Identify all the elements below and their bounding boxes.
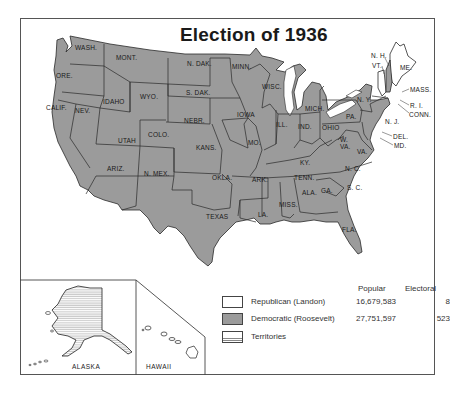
- legend-label: Republican (Landon): [251, 297, 325, 306]
- legend-header-electoral: Electoral: [405, 284, 436, 293]
- inset-label-hawaii: HAWAII: [146, 363, 172, 370]
- legend-electoral-vote: 8: [422, 297, 450, 306]
- republican-swatch: [222, 296, 243, 308]
- territories-swatch: [222, 331, 243, 343]
- legend-header-popular: Popular: [358, 284, 386, 293]
- inset-label-alaska: ALASKA: [72, 363, 100, 370]
- legend-popular-vote: 16,679,583: [356, 297, 396, 306]
- legend-popular-vote: 27,751,597: [356, 314, 396, 323]
- democratic-swatch: [222, 313, 243, 325]
- legend-label: Territories: [251, 332, 286, 341]
- legend-electoral-vote: 523: [422, 314, 450, 323]
- legend-label: Democratic (Roosevelt): [251, 314, 335, 323]
